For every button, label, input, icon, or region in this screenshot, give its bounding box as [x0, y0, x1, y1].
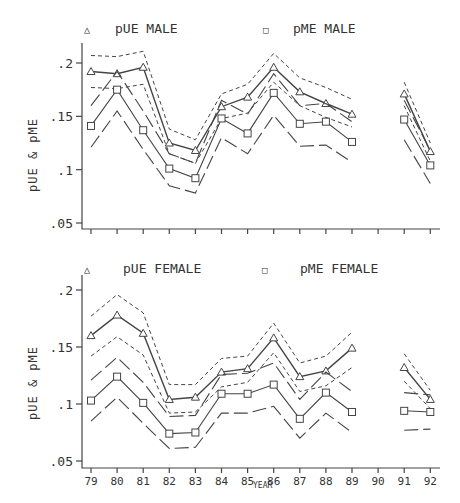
square-marker-icon: [192, 429, 199, 436]
y-ticks-top: .05.1.15.2: [50, 56, 82, 231]
legend-bottom: △ pUE FEMALE □ pME FEMALE: [84, 261, 378, 276]
square-marker-icon: [140, 127, 147, 134]
y-tick-label: .2: [57, 56, 73, 71]
x-ticks-top: [91, 229, 430, 234]
y-axis-title-top: pUE & pME: [26, 118, 40, 192]
triangle-marker-icon: △: [84, 24, 90, 35]
triangle-marker-icon: [400, 90, 408, 97]
triangle-marker-icon: [270, 63, 278, 70]
legend-pue-male: pUE MALE: [115, 21, 178, 36]
square-marker-icon: [401, 116, 408, 123]
x-tick-label: 89: [345, 475, 358, 488]
x-tick-label: 82: [163, 475, 176, 488]
upper-bound-line: [91, 295, 430, 391]
square-marker-icon: [401, 407, 408, 414]
male-panel: △ pUE MALE □ pME MALE pUE & pME .05.1.15…: [26, 21, 440, 234]
square-marker-icon: [114, 86, 121, 93]
x-tick-label: 92: [424, 475, 437, 488]
series-top: [87, 51, 434, 193]
square-marker-icon: [349, 138, 356, 145]
y-tick-label: .15: [50, 109, 73, 124]
triangle-marker-icon: [165, 139, 173, 146]
square-marker-icon: [140, 399, 147, 406]
square-marker-icon: □: [262, 265, 268, 275]
axes-top: [82, 43, 440, 229]
square-marker-icon: [427, 162, 434, 169]
y-ticks-bottom: .05.1.15.2: [50, 283, 82, 469]
x-axis-title: YEAR: [253, 481, 272, 490]
square-marker-icon: [296, 120, 303, 127]
x-tick-label: 83: [189, 475, 202, 488]
legend-pme-female: pME FEMALE: [300, 261, 378, 276]
y-tick-label: .15: [50, 340, 73, 355]
square-marker-icon: [166, 430, 173, 437]
square-marker-icon: [166, 165, 173, 172]
square-marker-icon: □: [263, 25, 269, 35]
series-bottom: [87, 295, 434, 449]
y-tick-label: .1: [57, 397, 73, 412]
square-marker-icon: [192, 175, 199, 182]
square-marker-icon: [349, 408, 356, 415]
triangle-marker-icon: [400, 364, 408, 371]
upper-bound-line: [91, 357, 430, 416]
estimate-line: [91, 315, 430, 399]
triangle-marker-icon: △: [84, 264, 90, 275]
square-marker-icon: [322, 118, 329, 125]
square-marker-icon: [114, 373, 121, 380]
square-marker-icon: [88, 397, 95, 404]
upper-bound-line: [91, 72, 430, 164]
y-tick-label: .05: [50, 454, 73, 469]
triangle-marker-icon: [139, 329, 147, 336]
x-tick-label: 84: [215, 475, 229, 488]
y-axis-title-bottom: pUE & pME: [26, 346, 40, 420]
x-tick-label: 91: [398, 475, 411, 488]
figure: △ pUE MALE □ pME MALE pUE & pME .05.1.15…: [0, 0, 460, 503]
female-panel: △ pUE FEMALE □ pME FEMALE pUE & pME .05.…: [26, 261, 440, 490]
square-marker-icon: [322, 389, 329, 396]
lower-bound-line: [91, 111, 430, 193]
x-tick-label: 90: [371, 475, 384, 488]
square-marker-icon: [88, 122, 95, 129]
y-tick-label: .1: [57, 163, 73, 178]
square-marker-icon: [244, 130, 251, 137]
square-marker-icon: [244, 390, 251, 397]
triangle-marker-icon: [87, 68, 95, 75]
x-tick-label: 81: [137, 475, 150, 488]
y-tick-label: .05: [50, 216, 73, 231]
line-chart-figure: △ pUE MALE □ pME MALE pUE & pME .05.1.15…: [0, 0, 460, 503]
axes-bottom: [82, 275, 440, 468]
triangle-marker-icon: [113, 311, 121, 318]
x-tick-label: 88: [319, 475, 332, 488]
triangle-marker-icon: [270, 334, 278, 341]
square-marker-icon: [270, 89, 277, 96]
square-marker-icon: [296, 415, 303, 422]
x-tick-label: 80: [110, 475, 123, 488]
y-tick-label: .2: [57, 283, 73, 298]
square-marker-icon: [270, 381, 277, 388]
legend-pme-male: pME MALE: [293, 21, 356, 36]
legend-pue-female: pUE FEMALE: [123, 261, 201, 276]
triangle-marker-icon: [426, 148, 434, 155]
x-tick-label: 79: [84, 475, 97, 488]
x-tick-label: 87: [293, 475, 306, 488]
square-marker-icon: [427, 408, 434, 415]
triangle-marker-icon: [348, 344, 356, 351]
legend-top: △ pUE MALE □ pME MALE: [84, 21, 356, 36]
square-marker-icon: [218, 390, 225, 397]
triangle-marker-icon: [139, 63, 147, 70]
square-marker-icon: [218, 115, 225, 122]
